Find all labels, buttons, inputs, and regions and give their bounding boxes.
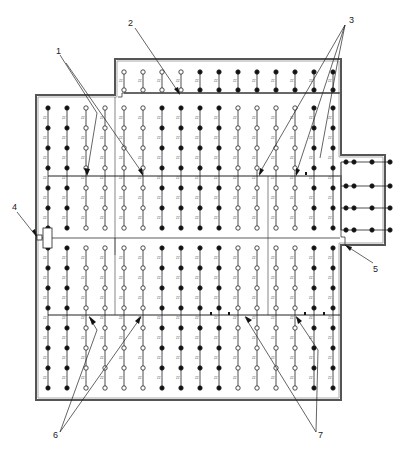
node-filled bbox=[198, 286, 202, 290]
node-label: ZZ bbox=[214, 216, 218, 220]
node-open bbox=[293, 226, 297, 230]
node-open bbox=[236, 226, 240, 230]
node-label: ZZ bbox=[290, 336, 294, 340]
node-open bbox=[160, 88, 164, 92]
node-label: ZZ bbox=[157, 296, 161, 300]
node-label: ZZ bbox=[271, 336, 275, 340]
node-open bbox=[122, 286, 126, 290]
node-open bbox=[274, 126, 278, 130]
node-open bbox=[255, 126, 259, 130]
node-filled bbox=[217, 326, 221, 330]
node-open bbox=[122, 166, 126, 170]
node-label: ZZ bbox=[119, 336, 123, 340]
node-open bbox=[255, 146, 259, 150]
node-label: ZZ bbox=[195, 136, 199, 140]
node-columns: ZZZZZZZZZZZZZZZZZZZZZZZZZZZZZZZZZZZZZZZZ… bbox=[43, 106, 335, 390]
node-filled bbox=[217, 186, 221, 190]
node-label: ZZ bbox=[214, 256, 218, 260]
node-filled bbox=[312, 186, 316, 190]
node-open bbox=[141, 106, 145, 110]
node-filled bbox=[370, 206, 374, 210]
node-filled bbox=[198, 126, 202, 130]
node-label: ZZ bbox=[157, 196, 161, 200]
node-filled bbox=[312, 106, 316, 110]
node-label: ZZ bbox=[176, 116, 180, 120]
node-filled bbox=[65, 206, 69, 210]
node-open bbox=[255, 106, 259, 110]
node-label: ZZ bbox=[100, 296, 104, 300]
node-filled bbox=[217, 266, 221, 270]
node-filled bbox=[198, 366, 202, 370]
node-open bbox=[236, 346, 240, 350]
node-label: ZZ bbox=[233, 376, 237, 380]
node-open bbox=[84, 346, 88, 350]
node-open bbox=[274, 286, 278, 290]
node-label: ZZ bbox=[233, 316, 237, 320]
node-open bbox=[103, 166, 107, 170]
node-label: ZZ bbox=[100, 216, 104, 220]
node-filled bbox=[217, 386, 221, 390]
node-open bbox=[141, 88, 145, 92]
node-open bbox=[293, 286, 297, 290]
node-open bbox=[293, 266, 297, 270]
node-open bbox=[103, 186, 107, 190]
node-label: ZZ bbox=[157, 336, 161, 340]
node-filled bbox=[217, 146, 221, 150]
node-label: ZZ bbox=[214, 136, 218, 140]
equipment-box bbox=[37, 228, 52, 248]
node-open bbox=[236, 246, 240, 250]
node-filled bbox=[331, 206, 335, 210]
arrowheads bbox=[32, 87, 352, 325]
node-open bbox=[141, 146, 145, 150]
node-label: ZZ bbox=[119, 176, 123, 180]
node-open bbox=[122, 366, 126, 370]
node-label: ZZ bbox=[233, 116, 237, 120]
node-label: ZZ bbox=[157, 176, 161, 180]
node-open bbox=[141, 266, 145, 270]
node-label: ZZ bbox=[309, 196, 313, 200]
node-label: ZZ bbox=[100, 316, 104, 320]
node-filled bbox=[65, 106, 69, 110]
node-label: ZZ bbox=[290, 79, 294, 83]
node-label: ZZ bbox=[100, 356, 104, 360]
node-filled bbox=[331, 186, 335, 190]
node-filled bbox=[255, 70, 259, 74]
node-filled bbox=[198, 386, 202, 390]
node-label: ZZ bbox=[138, 156, 142, 160]
node-label: ZZ bbox=[233, 196, 237, 200]
node-open bbox=[236, 326, 240, 330]
node-label: ZZ bbox=[43, 176, 47, 180]
node-label: ZZ bbox=[271, 196, 275, 200]
node-open bbox=[274, 306, 278, 310]
node-filled bbox=[65, 126, 69, 130]
node-filled bbox=[331, 266, 335, 270]
node-filled bbox=[217, 88, 221, 92]
node-label: ZZ bbox=[138, 79, 142, 83]
node-label: ZZ bbox=[81, 176, 85, 180]
node-filled bbox=[179, 286, 183, 290]
node-open bbox=[236, 126, 240, 130]
node-label: ZZ bbox=[119, 316, 123, 320]
node-label: ZZ bbox=[214, 336, 218, 340]
node-filled bbox=[65, 146, 69, 150]
node-label: ZZ bbox=[252, 196, 256, 200]
node-open bbox=[84, 266, 88, 270]
node-label: ZZ bbox=[195, 316, 199, 320]
node-filled bbox=[331, 366, 335, 370]
node-open bbox=[84, 226, 88, 230]
node-label: ZZ bbox=[138, 216, 142, 220]
node-label: ZZ bbox=[233, 216, 237, 220]
node-filled bbox=[331, 226, 335, 230]
node-filled bbox=[344, 206, 348, 210]
node-open bbox=[84, 386, 88, 390]
node-label: ZZ bbox=[157, 256, 161, 260]
node-filled bbox=[331, 306, 335, 310]
node-label: ZZ bbox=[81, 116, 85, 120]
node-label: ZZ bbox=[62, 216, 66, 220]
node-filled bbox=[217, 166, 221, 170]
node-open bbox=[255, 246, 259, 250]
node-filled bbox=[293, 70, 297, 74]
node-label: ZZ bbox=[176, 216, 180, 220]
node-label: ZZ bbox=[119, 296, 123, 300]
node-label: ZZ bbox=[290, 276, 294, 280]
